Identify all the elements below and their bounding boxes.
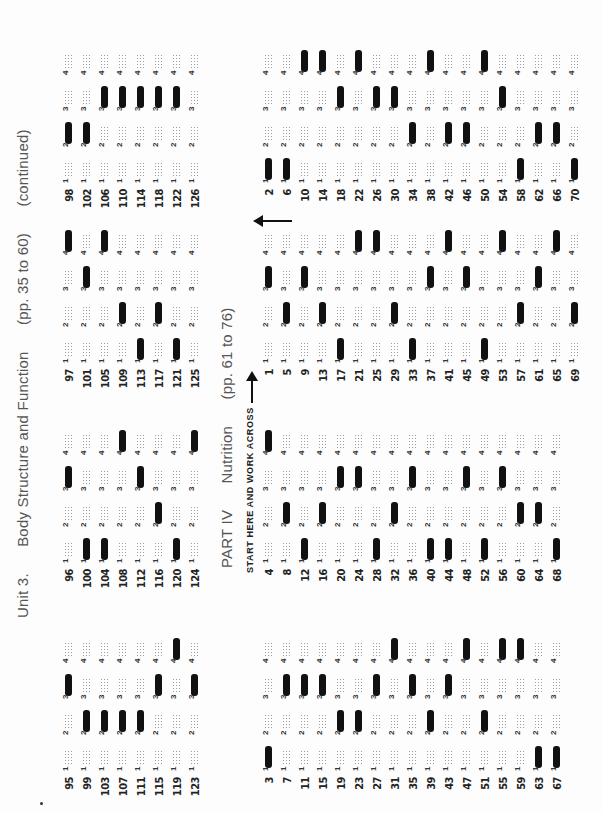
answer-bubble-1[interactable]: 1 bbox=[406, 527, 420, 563]
answer-bubble-3[interactable]: 3 bbox=[406, 455, 420, 491]
answer-bubble-2[interactable]: 2 bbox=[496, 491, 510, 527]
answer-bubble-4[interactable]: 4 bbox=[262, 39, 276, 75]
answer-bubble-3[interactable]: 3 bbox=[442, 75, 456, 111]
answer-bubble-1[interactable]: 1 bbox=[478, 147, 492, 183]
answer-bubble-3[interactable]: 3 bbox=[478, 255, 492, 291]
answer-bubble-2[interactable]: 2 bbox=[460, 491, 474, 527]
answer-bubble-2[interactable]: 2 bbox=[280, 491, 294, 527]
answer-bubble-4[interactable]: 4 bbox=[152, 627, 166, 663]
answer-bubble-1[interactable]: 1 bbox=[568, 147, 582, 183]
answer-bubble-2[interactable]: 2 bbox=[116, 291, 130, 327]
answer-bubble-2[interactable]: 2 bbox=[424, 111, 438, 147]
answer-bubble-2[interactable]: 2 bbox=[134, 291, 148, 327]
answer-bubble-2[interactable]: 2 bbox=[170, 491, 184, 527]
answer-bubble-1[interactable]: 1 bbox=[188, 735, 202, 771]
answer-bubble-2[interactable]: 2 bbox=[170, 111, 184, 147]
answer-bubble-4[interactable]: 4 bbox=[280, 627, 294, 663]
answer-bubble-4[interactable]: 4 bbox=[170, 219, 184, 255]
answer-bubble-4[interactable]: 4 bbox=[152, 219, 166, 255]
answer-bubble-4[interactable]: 4 bbox=[116, 419, 130, 455]
answer-bubble-1[interactable]: 1 bbox=[334, 527, 348, 563]
answer-bubble-2[interactable]: 2 bbox=[370, 111, 384, 147]
answer-bubble-1[interactable]: 1 bbox=[116, 147, 130, 183]
answer-bubble-3[interactable]: 3 bbox=[262, 75, 276, 111]
answer-bubble-3[interactable]: 3 bbox=[352, 255, 366, 291]
answer-bubble-4[interactable]: 4 bbox=[532, 419, 546, 455]
answer-bubble-4[interactable]: 4 bbox=[98, 219, 112, 255]
answer-bubble-2[interactable]: 2 bbox=[152, 699, 166, 735]
answer-bubble-3[interactable]: 3 bbox=[388, 255, 402, 291]
answer-bubble-3[interactable]: 3 bbox=[532, 455, 546, 491]
answer-bubble-3[interactable]: 3 bbox=[496, 255, 510, 291]
answer-bubble-2[interactable]: 2 bbox=[442, 111, 456, 147]
answer-bubble-1[interactable]: 1 bbox=[80, 527, 94, 563]
answer-bubble-4[interactable]: 4 bbox=[460, 419, 474, 455]
answer-bubble-3[interactable]: 3 bbox=[532, 75, 546, 111]
answer-bubble-1[interactable]: 1 bbox=[80, 147, 94, 183]
answer-bubble-2[interactable]: 2 bbox=[334, 491, 348, 527]
answer-bubble-4[interactable]: 4 bbox=[116, 219, 130, 255]
answer-bubble-4[interactable]: 4 bbox=[478, 627, 492, 663]
answer-bubble-2[interactable]: 2 bbox=[532, 111, 546, 147]
answer-bubble-2[interactable]: 2 bbox=[62, 111, 76, 147]
answer-bubble-1[interactable]: 1 bbox=[496, 735, 510, 771]
answer-bubble-3[interactable]: 3 bbox=[280, 255, 294, 291]
answer-bubble-2[interactable]: 2 bbox=[262, 699, 276, 735]
answer-bubble-1[interactable]: 1 bbox=[188, 147, 202, 183]
answer-bubble-2[interactable]: 2 bbox=[532, 699, 546, 735]
answer-bubble-2[interactable]: 2 bbox=[134, 111, 148, 147]
answer-bubble-4[interactable]: 4 bbox=[442, 219, 456, 255]
answer-bubble-2[interactable]: 2 bbox=[352, 699, 366, 735]
answer-bubble-3[interactable]: 3 bbox=[316, 663, 330, 699]
answer-bubble-4[interactable]: 4 bbox=[496, 219, 510, 255]
answer-bubble-3[interactable]: 3 bbox=[80, 663, 94, 699]
answer-bubble-1[interactable]: 1 bbox=[152, 147, 166, 183]
answer-bubble-2[interactable]: 2 bbox=[188, 291, 202, 327]
answer-bubble-3[interactable]: 3 bbox=[298, 455, 312, 491]
answer-bubble-2[interactable]: 2 bbox=[406, 699, 420, 735]
answer-bubble-3[interactable]: 3 bbox=[62, 663, 76, 699]
answer-bubble-1[interactable]: 1 bbox=[514, 527, 528, 563]
answer-bubble-4[interactable]: 4 bbox=[514, 219, 528, 255]
answer-bubble-3[interactable]: 3 bbox=[170, 455, 184, 491]
answer-bubble-1[interactable]: 1 bbox=[262, 527, 276, 563]
answer-bubble-1[interactable]: 1 bbox=[134, 735, 148, 771]
answer-bubble-3[interactable]: 3 bbox=[568, 75, 582, 111]
answer-bubble-1[interactable]: 1 bbox=[80, 327, 94, 363]
answer-bubble-2[interactable]: 2 bbox=[280, 699, 294, 735]
answer-bubble-1[interactable]: 1 bbox=[514, 147, 528, 183]
answer-bubble-2[interactable]: 2 bbox=[370, 491, 384, 527]
answer-bubble-2[interactable]: 2 bbox=[550, 491, 564, 527]
answer-bubble-4[interactable]: 4 bbox=[370, 39, 384, 75]
answer-bubble-1[interactable]: 1 bbox=[62, 147, 76, 183]
answer-bubble-3[interactable]: 3 bbox=[334, 663, 348, 699]
answer-bubble-3[interactable]: 3 bbox=[116, 75, 130, 111]
answer-bubble-3[interactable]: 3 bbox=[370, 75, 384, 111]
answer-bubble-2[interactable]: 2 bbox=[388, 699, 402, 735]
answer-bubble-3[interactable]: 3 bbox=[424, 455, 438, 491]
answer-bubble-3[interactable]: 3 bbox=[496, 75, 510, 111]
answer-bubble-4[interactable]: 4 bbox=[532, 219, 546, 255]
answer-bubble-1[interactable]: 1 bbox=[370, 147, 384, 183]
answer-bubble-3[interactable]: 3 bbox=[134, 75, 148, 111]
answer-bubble-4[interactable]: 4 bbox=[442, 419, 456, 455]
answer-bubble-1[interactable]: 1 bbox=[280, 527, 294, 563]
answer-bubble-4[interactable]: 4 bbox=[568, 39, 582, 75]
answer-bubble-4[interactable]: 4 bbox=[424, 419, 438, 455]
answer-bubble-4[interactable]: 4 bbox=[298, 39, 312, 75]
answer-bubble-3[interactable]: 3 bbox=[388, 663, 402, 699]
answer-bubble-1[interactable]: 1 bbox=[478, 527, 492, 563]
answer-bubble-1[interactable]: 1 bbox=[262, 147, 276, 183]
answer-bubble-2[interactable]: 2 bbox=[80, 491, 94, 527]
answer-bubble-2[interactable]: 2 bbox=[460, 111, 474, 147]
answer-bubble-3[interactable]: 3 bbox=[352, 663, 366, 699]
answer-bubble-3[interactable]: 3 bbox=[442, 455, 456, 491]
answer-bubble-1[interactable]: 1 bbox=[334, 735, 348, 771]
answer-bubble-3[interactable]: 3 bbox=[316, 455, 330, 491]
answer-bubble-3[interactable]: 3 bbox=[188, 455, 202, 491]
answer-bubble-4[interactable]: 4 bbox=[170, 39, 184, 75]
answer-bubble-3[interactable]: 3 bbox=[478, 75, 492, 111]
answer-bubble-4[interactable]: 4 bbox=[152, 419, 166, 455]
answer-bubble-1[interactable]: 1 bbox=[460, 735, 474, 771]
answer-bubble-1[interactable]: 1 bbox=[550, 735, 564, 771]
